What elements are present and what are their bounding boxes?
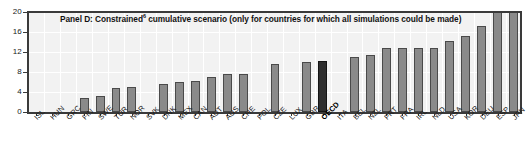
y-tick-mark <box>23 72 28 73</box>
y-tick-label: 4 <box>0 88 22 96</box>
plot-border-right <box>520 12 522 113</box>
title-footnote-marker: 6 <box>143 13 146 19</box>
bar <box>461 36 470 112</box>
bar <box>493 12 502 112</box>
bar <box>382 48 391 112</box>
bar <box>430 48 439 113</box>
bar <box>366 55 375 113</box>
y-tick-mark <box>23 52 28 53</box>
y-tick-label: 8 <box>0 68 22 76</box>
bar <box>239 74 248 112</box>
bar <box>318 61 327 113</box>
y-tick-label: 0 <box>0 108 22 116</box>
bar <box>509 12 518 112</box>
y-tick-label: 20 <box>0 8 22 16</box>
bar <box>302 62 311 113</box>
x-axis-labels: ISLHUNGRCFINSWETURNORSVKDNKMEXCANAUTAUSC… <box>29 113 522 150</box>
bars-layer <box>29 12 522 112</box>
y-tick-label: 12 <box>0 48 22 56</box>
plot-area <box>29 12 522 112</box>
y-tick-label: 16 <box>0 28 22 36</box>
bar <box>445 41 454 112</box>
plot-border-top <box>27 11 522 13</box>
bar <box>398 48 407 113</box>
y-tick-mark <box>23 32 28 33</box>
y-tick-mark <box>23 112 28 113</box>
bar <box>414 48 423 113</box>
y-axis-labels: 048121620 <box>0 8 22 116</box>
bar <box>477 26 486 113</box>
y-tick-mark <box>23 92 28 93</box>
bar <box>271 64 280 112</box>
panel-title: Panel D: Constrained6 cumulative scenari… <box>60 14 461 24</box>
bar <box>350 57 359 112</box>
y-tick-mark <box>23 12 28 13</box>
